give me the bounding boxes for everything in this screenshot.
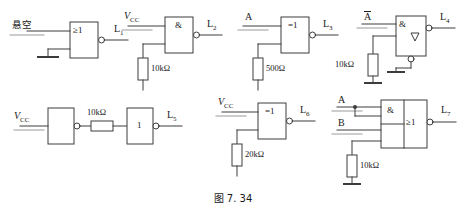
figure-caption: 图 7. 34: [0, 190, 466, 205]
circuit-5-gate2-symbol: 1: [137, 120, 142, 130]
circuit-5-input-label: VCC: [14, 111, 29, 124]
circuit-1-input-label: 悬空: [12, 20, 32, 30]
circuit-7-and-symbol: &: [387, 105, 394, 115]
circuit-5-resistor-label: 10kΩ: [87, 108, 106, 117]
circuit-4-resistor-label: 10kΩ: [335, 60, 354, 69]
circuit-4-input-label: A: [364, 11, 371, 23]
circuit-1-gate-symbol: ≥1: [73, 25, 82, 35]
circuit-2-input-label: VCC: [124, 11, 139, 24]
figure-page: 悬空 ≥1 L1 VCC & L2 10kΩ A =1 L3 500Ω A & …: [0, 0, 466, 215]
circuit-6-output-label: L6: [300, 105, 310, 118]
circuit-3-gate-symbol: =1: [288, 20, 298, 30]
circuit-5-output-label: L5: [167, 110, 177, 123]
circuit-7-input-b-label: B: [338, 118, 345, 128]
circuit-4-output-label: L4: [440, 12, 450, 25]
circuit-1-output-label: L1: [114, 24, 124, 37]
circuit-3-input-label: A: [245, 12, 252, 22]
circuit-6-input-label: VCC: [218, 97, 233, 110]
circuit-3-output-label: L3: [323, 19, 333, 32]
circuit-2-output-label: L2: [207, 19, 217, 32]
circuit-7-input-a-label: A: [338, 95, 345, 105]
circuit-7-or-symbol: ≥1: [406, 117, 415, 127]
circuit-3-resistor-label: 500Ω: [266, 64, 285, 73]
circuit-2-resistor-label: 10kΩ: [151, 64, 170, 73]
circuit-4-gate-symbol: &: [399, 19, 406, 29]
circuit-6-gate-symbol: =1: [265, 106, 275, 116]
circuit-2-gate-symbol: &: [175, 20, 182, 30]
circuit-7-resistor-label: 10kΩ: [360, 161, 379, 170]
circuit-6-resistor-label: 20kΩ: [245, 150, 264, 159]
circuit-7-output-label: L7: [441, 105, 451, 118]
